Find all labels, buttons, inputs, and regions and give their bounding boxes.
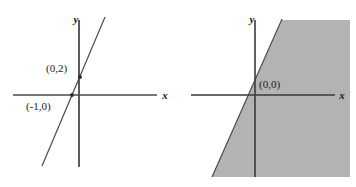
x-axis-label: x (338, 89, 345, 101)
x-intercept-label: (-1,0) (26, 100, 51, 113)
figure-container: y x (0,2) (-1,0) y x (0,0) (0, 0, 356, 187)
origin-label: (0,0) (259, 78, 280, 91)
y-intercept-marker (78, 75, 82, 79)
y-intercept-label: (0,2) (46, 62, 67, 75)
y-axis-label: y (248, 13, 255, 25)
line-graph-panel: y x (0,2) (-1,0) (0, 0, 178, 187)
shaded-inequality-panel: y x (0,0) (178, 0, 356, 187)
x-axis-label: x (161, 89, 168, 101)
x-intercept-marker (70, 93, 74, 97)
y-axis-label: y (72, 13, 79, 25)
shaded-region (212, 20, 350, 177)
function-line (42, 17, 105, 166)
